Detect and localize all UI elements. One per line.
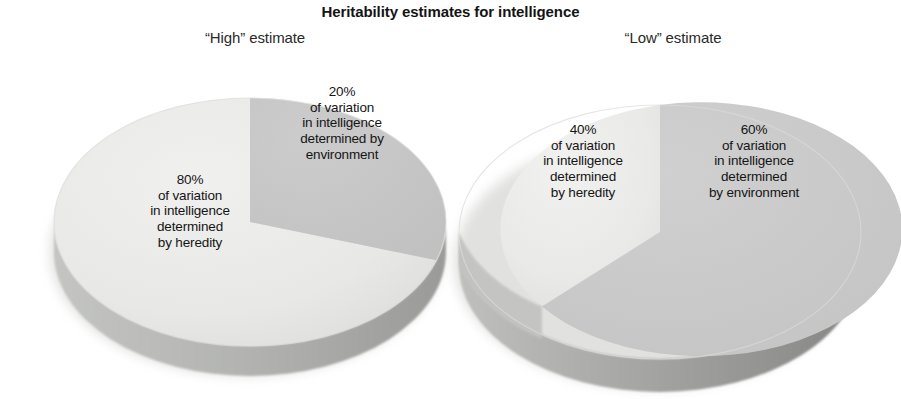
pie-chart-figure: Heritability estimates for intelligence …: [0, 0, 901, 399]
slice-label-low-heredity: 40%of variation in intelligence determin…: [508, 122, 658, 200]
slice-label-low-environment: 60%of variation in intelligence determin…: [668, 122, 840, 200]
slice-desc-low-heredity: of variation in intelligence determined …: [543, 138, 623, 200]
slice-percent-high-heredity: 80%: [177, 172, 204, 187]
slice-percent-high-environment: 20%: [329, 84, 356, 99]
slice-label-high-heredity: 80%of variation in intelligence determin…: [106, 172, 274, 250]
slice-label-high-environment: 20%of variation in intelligence determin…: [256, 84, 428, 162]
slice-percent-low-heredity: 40%: [570, 122, 597, 137]
slice-percent-low-environment: 60%: [741, 122, 768, 137]
slice-desc-low-environment: of variation in intelligence determined …: [709, 138, 799, 200]
slice-desc-high-heredity: of variation in intelligence determined …: [150, 188, 230, 250]
slice-desc-high-environment: of variation in intelligence determined …: [300, 100, 384, 162]
